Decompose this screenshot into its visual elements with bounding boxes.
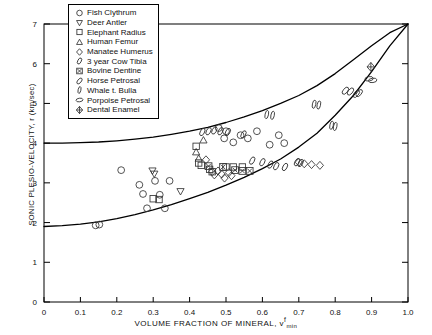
- chart-plot-area: 00.10.20.30.40.50.60.70.80.91.001234567: [0, 0, 432, 335]
- legend-item: Deer Antler: [73, 18, 153, 28]
- legend-item-label: Manatee Humerus: [86, 47, 153, 56]
- legend-item: Dental Enamel: [73, 105, 153, 115]
- legend-item: Fish Clythrum: [73, 8, 153, 18]
- data-point-ellipse-narrow: [264, 110, 269, 119]
- data-point-ellipse: [248, 156, 255, 165]
- data-point-triangle-up: [77, 39, 83, 44]
- legend-item-label: Fish Clythrum: [86, 8, 136, 17]
- data-point-diamond: [308, 161, 315, 169]
- data-point-diamond: [316, 161, 323, 169]
- data-point-triangle-up: [195, 155, 202, 161]
- x-axis-label-sub: min: [286, 323, 297, 329]
- y-tick-label: 1: [33, 258, 38, 267]
- data-point-circle: [281, 140, 288, 147]
- data-point-ellipse-wide: [76, 98, 83, 103]
- legend-marker-triangle-down-icon: [73, 18, 86, 28]
- legend-marker-ellipse-tilt-icon: [73, 76, 86, 86]
- data-point-square: [198, 162, 204, 168]
- legend-item: 3 year Cow Tibia: [73, 56, 153, 66]
- data-point-circle: [77, 10, 83, 16]
- data-point-circle: [140, 191, 147, 198]
- x-axis-label-sup: f: [284, 316, 286, 323]
- legend-marker-square-icon: [73, 27, 86, 37]
- data-point-ellipse: [224, 128, 231, 137]
- data-point-circle: [166, 177, 173, 184]
- series-porpoise-petrosal: [365, 76, 378, 83]
- data-point-triangle-down: [77, 20, 83, 25]
- data-point-circle: [144, 205, 151, 212]
- legend-item: Elephant Radius: [73, 27, 153, 37]
- data-point-ellipse-narrow: [77, 87, 81, 94]
- legend-item-label: 3 year Cow Tibia: [86, 57, 147, 66]
- legend-marker-ellipse-icon: [73, 56, 86, 66]
- data-point-circle: [161, 205, 168, 212]
- legend-item-label: Deer Antler: [86, 18, 127, 27]
- legend-item: Manatee Humerus: [73, 47, 153, 57]
- data-point-square-x: [77, 68, 83, 74]
- data-point-ellipse: [281, 162, 288, 171]
- data-point-square-x: [246, 168, 253, 175]
- legend-marker-square-x-icon: [73, 66, 86, 76]
- data-point-circle: [266, 141, 273, 148]
- series-whale-t-bulla: [264, 100, 338, 131]
- data-point-triangle-down: [177, 189, 184, 195]
- x-axis-label: VOLUME FRACTION OF MINERAL, vfmin: [0, 316, 432, 329]
- data-point-ellipse: [259, 158, 266, 167]
- data-point-ellipse-narrow: [312, 100, 317, 109]
- legend-item: Porpoise Petrosal: [73, 95, 153, 105]
- legend-item-label: Horse Petrosal: [86, 76, 140, 85]
- legend-marker-ellipse-wide-icon: [73, 95, 86, 105]
- legend-marker-diamond-icon: [73, 47, 86, 57]
- data-point-ellipse-narrow: [270, 111, 275, 120]
- data-point-circle: [136, 181, 143, 188]
- legend-marker-ellipse-narrow-icon: [73, 85, 86, 95]
- legend-marker-triangle-up-icon: [73, 37, 86, 47]
- chart-legend: Fish ClythrumDeer AntlerElephant RadiusH…: [68, 4, 159, 119]
- legend-item-label: Whale t. Bulla: [86, 86, 136, 95]
- data-point-circle: [230, 139, 237, 146]
- data-point-circle: [275, 132, 282, 139]
- legend-item-label: Bovine Dentine: [86, 66, 141, 75]
- legend-item-label: Elephant Radius: [86, 28, 146, 37]
- data-point-triangle-up: [200, 137, 207, 143]
- data-point-star-diamond: [76, 106, 82, 113]
- data-point-ellipse-tilt: [76, 77, 83, 85]
- data-point-diamond: [77, 48, 83, 55]
- legend-item-label: Human Femur: [86, 37, 138, 46]
- legend-item-label: Porpoise Petrosal: [86, 96, 150, 105]
- figure-container: 00.10.20.30.40.50.60.70.80.91.001234567 …: [0, 0, 432, 335]
- data-point-square: [196, 160, 202, 166]
- data-point-square-x: [239, 168, 246, 175]
- series-3-year-cow-tibia: [199, 126, 305, 172]
- legend-item: Whale t. Bulla: [73, 86, 153, 96]
- data-point-square: [77, 30, 82, 35]
- data-point-ellipse-narrow: [316, 101, 321, 110]
- legend-marker-circle-icon: [73, 8, 86, 18]
- x-axis-label-main: VOLUME FRACTION OF MINERAL, v: [135, 319, 285, 328]
- data-point-ellipse: [211, 126, 218, 135]
- y-tick-label: 7: [33, 20, 38, 29]
- data-point-circle: [254, 128, 261, 135]
- data-point-triangle-down: [151, 171, 158, 177]
- data-point-ellipse-wide: [368, 78, 377, 84]
- legend-marker-star-diamond-icon: [73, 105, 86, 115]
- y-axis-label: SONIC PLESIO-VELOCITY, r (km/sec): [27, 55, 36, 255]
- data-point-ellipse: [76, 58, 82, 65]
- legend-item: Human Femur: [73, 37, 153, 47]
- y-axis-label-text: SONIC PLESIO-VELOCITY, r (km/sec): [27, 83, 36, 225]
- data-point-circle: [118, 167, 125, 174]
- data-point-circle: [152, 177, 159, 184]
- y-tick-label: 0: [33, 298, 38, 307]
- legend-item: Bovine Dentine: [73, 66, 153, 76]
- legend-item: Horse Petrosal: [73, 76, 153, 86]
- legend-item-label: Dental Enamel: [86, 105, 139, 114]
